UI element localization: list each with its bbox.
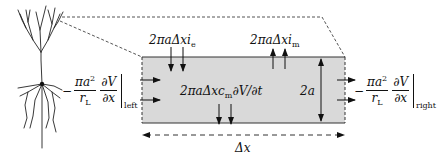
electrode-current-label: 2πaΔxie bbox=[149, 33, 196, 49]
diameter-label: 2a bbox=[300, 84, 315, 98]
right-flux-label: − πa2rL ∂V∂x right bbox=[354, 72, 414, 109]
length-label: Δx bbox=[235, 141, 250, 155]
membrane-current-label: 2πaΔxim bbox=[250, 33, 300, 49]
neuron-icon bbox=[18, 6, 63, 148]
length-arrow bbox=[142, 132, 345, 138]
zoom-lines bbox=[60, 17, 345, 57]
capacitive-current-label: 2πaΔxcm∂V/∂t bbox=[180, 84, 262, 100]
soma bbox=[40, 82, 44, 86]
left-flux-label: − πa2rL ∂V∂x left bbox=[62, 72, 122, 109]
